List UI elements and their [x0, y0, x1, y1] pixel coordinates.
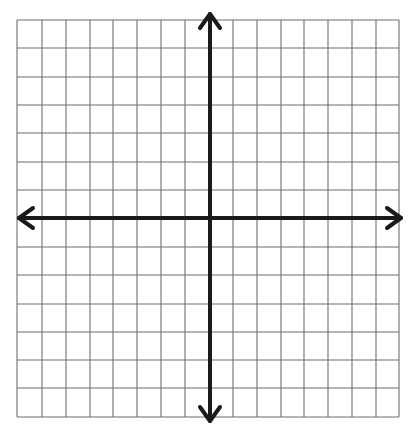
- coordinate-grid: [0, 0, 411, 446]
